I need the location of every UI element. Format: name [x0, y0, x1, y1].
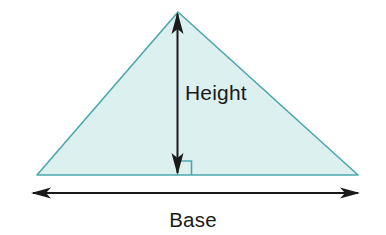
height-label: Height	[185, 81, 247, 104]
triangle-diagram-canvas: Height Base	[0, 0, 386, 235]
base-label: Base	[169, 208, 217, 231]
geometry-figure: Height Base	[0, 0, 386, 235]
